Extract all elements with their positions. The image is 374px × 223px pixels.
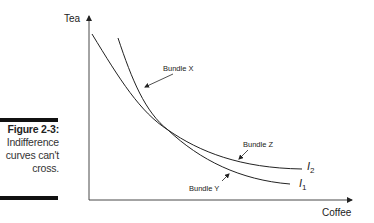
curve-i1-label-sub: 1 — [302, 183, 307, 192]
bundle-y-label: Bundle Y — [189, 184, 219, 193]
curve-i2-label-sub: 2 — [310, 166, 315, 175]
bundle-z-pointer-arrow — [239, 150, 248, 159]
bundle-x-pointer-arrow — [145, 74, 173, 87]
curve-i2 — [118, 38, 302, 169]
bundle-y-pointer-arrow — [222, 174, 229, 181]
curve-i1 — [92, 34, 290, 184]
bundle-x-label: Bundle X — [163, 64, 193, 73]
curve-i2-label: I2 — [307, 160, 315, 175]
bundle-z-label: Bundle Z — [243, 140, 273, 149]
indifference-curve-diagram: Tea Coffee I2 I1 Bundle X Bundle Z Bundl… — [0, 0, 374, 223]
y-axis-label: Tea — [64, 13, 81, 24]
x-axis-label: Coffee — [322, 207, 352, 218]
curve-i1-label: I1 — [299, 177, 307, 192]
